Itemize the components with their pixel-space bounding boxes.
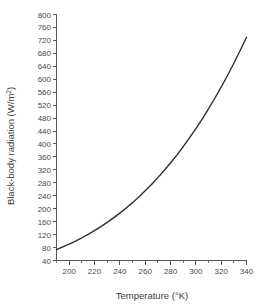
y-tick-label: 480 xyxy=(38,114,52,123)
blackbody-curve xyxy=(57,37,247,249)
y-tick-label: 800 xyxy=(38,11,52,20)
x-tick-label: 240 xyxy=(113,267,127,276)
x-tick-label: 200 xyxy=(62,267,76,276)
y-tick-label: 760 xyxy=(38,23,52,32)
y-tick-label: 80 xyxy=(42,244,51,253)
y-tick-label: 440 xyxy=(38,127,52,136)
y-tick-label: 600 xyxy=(38,75,52,84)
x-tick-label: 300 xyxy=(189,267,203,276)
x-axis-tick-labels: 200220240260280300320340 xyxy=(62,267,253,276)
axes-group xyxy=(57,15,247,261)
y-axis-tick-labels: 4080120160200240280320360400440480520560… xyxy=(38,11,52,266)
y-tick-label: 680 xyxy=(38,49,52,58)
y-tick-label: 40 xyxy=(42,257,51,266)
y-tick-label: 200 xyxy=(38,205,52,214)
y-tick-label: 280 xyxy=(38,179,52,188)
y-tick-label: 160 xyxy=(38,218,52,227)
x-tick-label: 340 xyxy=(240,267,254,276)
blackbody-radiation-chart: 4080120160200240280320360400440480520560… xyxy=(0,0,264,307)
y-tick-label: 640 xyxy=(38,62,52,71)
y-axis-ticks xyxy=(53,15,57,261)
x-axis-title: Temperature (°K) xyxy=(116,290,188,301)
y-tick-label: 320 xyxy=(38,166,52,175)
x-tick-label: 260 xyxy=(138,267,152,276)
y-tick-label: 360 xyxy=(38,153,52,162)
y-tick-label: 120 xyxy=(38,231,52,240)
y-tick-label: 520 xyxy=(38,101,52,110)
y-axis-title: Black-body radiation (W/m2) xyxy=(5,87,17,205)
data-series-group xyxy=(57,37,247,249)
x-tick-label: 220 xyxy=(88,267,102,276)
y-tick-label: 240 xyxy=(38,192,52,201)
chart-figure: 4080120160200240280320360400440480520560… xyxy=(0,0,264,307)
x-tick-label: 320 xyxy=(214,267,228,276)
x-axis-ticks xyxy=(57,261,247,265)
x-tick-label: 280 xyxy=(164,267,178,276)
y-tick-label: 400 xyxy=(38,140,52,149)
y-tick-label: 720 xyxy=(38,36,52,45)
y-tick-label: 560 xyxy=(38,88,52,97)
